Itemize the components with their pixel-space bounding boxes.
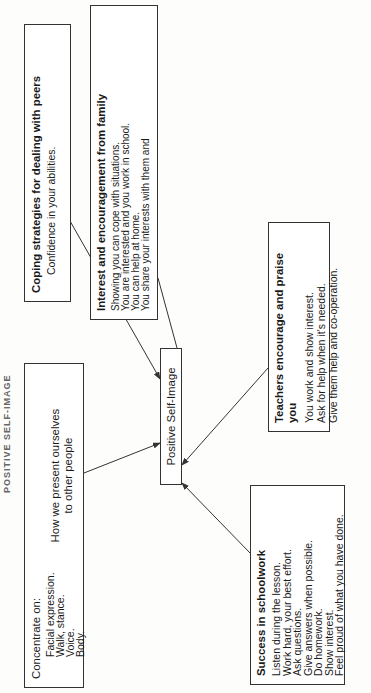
success-title: Success in schoolwork: [255, 494, 268, 676]
teachers-line: You work and show interest.: [303, 231, 315, 423]
coping-strategies-box: Coping strategies for dealing with peers…: [24, 24, 71, 302]
concentrate-on-box: Concentrate on: Facial expression. Walk,…: [24, 363, 84, 688]
arrow-concentrate: [84, 443, 160, 473]
coping-title: Coping strategies for dealing with peers: [30, 33, 43, 293]
center-label: Positive Self-Image: [165, 367, 177, 465]
teachers-line: Ask for help when it's needed.: [315, 231, 327, 423]
positive-self-image-node: Positive Self-Image: [160, 348, 182, 485]
success-line: Ask questions.: [292, 494, 303, 676]
arrow-success: [182, 483, 250, 553]
family-encouragement-box: Interest and encouragement from family S…: [90, 5, 158, 320]
family-title: Interest and encouragement from family: [95, 14, 108, 311]
coping-line: Confidence in your abilities.: [46, 33, 57, 293]
success-line: Feel proud of what you have done.: [334, 494, 345, 676]
family-line: You share your interests with them and: [141, 14, 151, 311]
success-line: Do homework.: [313, 494, 324, 676]
arrow-family: [158, 278, 180, 359]
teachers-encourage-box: Teachers encourage and praise you You wo…: [268, 222, 330, 432]
concentrate-line: Body.: [75, 572, 85, 657]
brace-label-line: to other people: [62, 409, 75, 543]
brace-label-line: How we present ourselves: [49, 409, 62, 543]
teachers-title: Teachers encourage and praise you: [273, 231, 299, 423]
success-line: Listen during the lesson.: [271, 494, 282, 676]
success-schoolwork-box: Success in schoolwork Listen during the …: [250, 485, 345, 685]
diagram-page: POSITIVE SELF-IMAGE Coping strategies fo…: [0, 0, 371, 693]
arrow-teachers: [182, 368, 268, 465]
concentrate-title: Concentrate on:: [30, 372, 43, 679]
teachers-line: Give them help and co-operation.: [327, 231, 339, 423]
